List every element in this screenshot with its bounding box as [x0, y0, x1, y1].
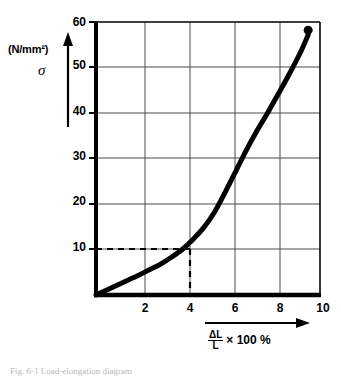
stress-strain-curve [96, 35, 308, 295]
curve-endpoint-marker [304, 26, 313, 35]
plot-canvas [0, 0, 341, 378]
x-axis-direction-arrow [205, 318, 310, 328]
y-axis-direction-arrow [63, 32, 73, 127]
stress-strain-figure: (N/mm²) σ 60 50 40 30 20 10 2 4 6 8 10 Δ… [0, 0, 341, 378]
